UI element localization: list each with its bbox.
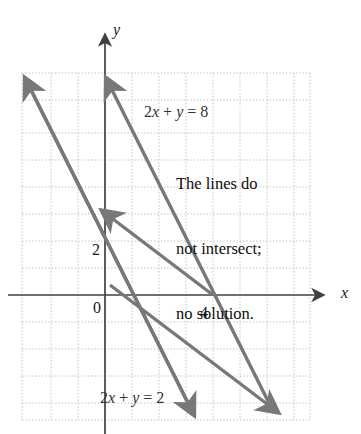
equation-upper-plus: + [159,103,176,120]
equation-lower-lead: 2 [100,389,108,406]
annotation-text: The lines do not intersect; no solution. [176,129,262,368]
annotation-line-1: The lines do [176,173,262,195]
equation-lower-equals: = [139,389,156,406]
origin-label: 0 [93,300,101,316]
equation-label-lower: 2x + y = 2 [84,374,164,422]
equation-upper-equals: = [183,103,200,120]
equation-upper-lead: 2 [144,103,152,120]
equation-upper-rhs: 8 [200,103,208,120]
equation-lower-rhs: 2 [156,389,164,406]
figure-canvas: y x 2 0 4 2x + y = 8 2x + y = 2 The line… [0,0,361,434]
y-axis-label: y [113,22,120,38]
y-tick-label-2: 2 [92,242,100,258]
annotation-line-3: no solution. [176,303,262,325]
x-axis-label: x [341,285,348,301]
equation-lower-plus: + [115,389,132,406]
annotation-line-2: not intersect; [176,238,262,260]
